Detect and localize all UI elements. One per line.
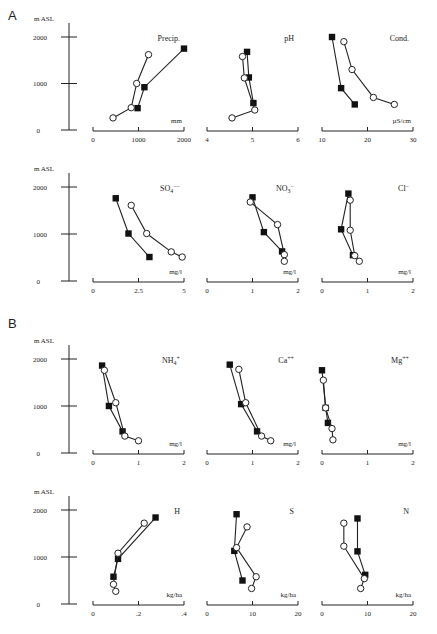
panel-mg: 012mg/lMg++	[319, 355, 415, 467]
marker-filled-square	[125, 230, 131, 236]
marker-filled-square	[227, 361, 233, 367]
panel-title: Cl−	[398, 183, 410, 193]
marker-filled-square	[354, 515, 360, 521]
marker-open-circle	[128, 202, 134, 208]
x-tick-label: 0	[91, 287, 95, 295]
panel-cl: 012mg/lCl−	[320, 183, 415, 295]
marker-open-circle	[168, 249, 174, 255]
marker-filled-square	[134, 105, 140, 111]
panel-nh4: 012mg/lNH4+	[91, 355, 186, 467]
marker-open-circle	[258, 433, 264, 439]
marker-open-circle	[252, 107, 258, 113]
x-tick-label: 20	[410, 610, 418, 618]
x-tick-label: 10	[249, 610, 257, 618]
y-tick-label: 2000	[33, 34, 48, 42]
x-tick-label: 4	[205, 136, 209, 144]
marker-filled-square	[110, 574, 116, 580]
panel-title: Mg++	[391, 355, 410, 365]
marker-filled-square	[345, 190, 351, 196]
marker-open-circle	[128, 104, 134, 110]
panel-s: 01020kg/haS	[205, 507, 302, 618]
marker-filled-square	[233, 511, 239, 517]
marker-open-circle	[101, 367, 107, 373]
marker-open-circle	[248, 585, 254, 591]
marker-open-circle	[329, 425, 335, 431]
marker-open-circle	[143, 230, 149, 236]
x-axis-unit: mg/l	[169, 440, 182, 448]
panel-title: NH4+	[162, 355, 181, 366]
marker-open-circle	[242, 400, 248, 406]
panel-title: pH	[284, 34, 294, 43]
marker-open-circle	[357, 585, 363, 591]
marker-open-circle	[141, 520, 147, 526]
marker-filled-square	[141, 84, 147, 90]
x-axis-unit: kg/ha	[395, 591, 411, 599]
series-line	[113, 518, 155, 577]
x-tick-label: 30	[410, 136, 418, 144]
panel-ca: 012mg/lCa++	[205, 355, 300, 467]
x-axis-unit: mg/l	[398, 440, 411, 448]
y-axis-label: m ASL	[34, 15, 54, 23]
x-tick-label: 2000	[177, 136, 192, 144]
x-tick-label: 0	[320, 459, 324, 467]
marker-open-circle	[247, 199, 253, 205]
y-axis-row-1: 010002000m ASL	[33, 165, 77, 286]
x-tick-label: 2	[411, 459, 415, 467]
x-axis-unit: kg/ha	[166, 591, 182, 599]
x-axis-unit: mg/l	[283, 268, 296, 276]
y-tick-label: 1000	[33, 231, 48, 239]
marker-open-circle	[135, 438, 141, 444]
x-axis-unit: kg/ha	[280, 591, 296, 599]
x-tick-label: 2	[296, 287, 300, 295]
y-tick-label: 0	[37, 450, 41, 458]
panel-title: NO3−	[276, 183, 295, 194]
x-tick-label: 0	[320, 287, 324, 295]
marker-open-circle	[239, 53, 245, 59]
x-tick-label: 1	[251, 459, 255, 467]
marker-open-circle	[179, 254, 185, 260]
panel-title: Cond.	[390, 34, 409, 43]
y-axis-label: m ASL	[34, 488, 54, 496]
marker-filled-square	[329, 34, 335, 40]
panel-title: S	[290, 507, 294, 516]
marker-open-circle	[361, 575, 367, 581]
x-axis-unit: mg/l	[169, 268, 182, 276]
marker-open-circle	[347, 197, 353, 203]
marker-open-circle	[341, 543, 347, 549]
x-axis-unit: mg/l	[398, 268, 411, 276]
panel-n: 01020kg/haN	[320, 507, 417, 618]
marker-open-circle	[268, 438, 274, 444]
marker-filled-square	[181, 45, 187, 51]
marker-open-circle	[347, 227, 353, 233]
y-axis-row-3: 010002000m ASL	[33, 488, 77, 609]
x-tick-label: 2	[182, 459, 186, 467]
x-tick-label: 0	[320, 610, 324, 618]
marker-open-circle	[330, 437, 336, 443]
figure-canvas: 010002000m ASL010002000m ASL010002000m A…	[0, 0, 437, 634]
marker-filled-square	[261, 229, 267, 235]
marker-filled-square	[338, 85, 344, 91]
marker-open-circle	[113, 588, 119, 594]
marker-open-circle	[391, 101, 397, 107]
marker-open-circle	[145, 51, 151, 57]
marker-open-circle	[341, 520, 347, 526]
y-axis-row-2: 010002000m ASL	[33, 337, 77, 458]
series-line	[230, 365, 257, 432]
marker-open-circle	[110, 581, 116, 587]
y-axis-label: m ASL	[34, 337, 54, 345]
marker-filled-square	[239, 577, 245, 583]
x-tick-label: 0	[91, 136, 95, 144]
x-tick-label: 5	[251, 136, 255, 144]
x-tick-label: 2	[411, 287, 415, 295]
y-tick-label: 1000	[33, 554, 48, 562]
x-tick-label: 0	[205, 459, 209, 467]
marker-open-circle	[233, 544, 239, 550]
marker-open-circle	[241, 75, 247, 81]
y-axis-row-0: 010002000m ASL	[33, 15, 77, 135]
x-tick-label: .4	[181, 610, 187, 618]
panel-cond: 102030µS/cmCond.	[319, 34, 418, 144]
x-tick-label: 0	[91, 610, 95, 618]
panel-no3: 012mg/lNO3−	[205, 183, 300, 295]
panel-title: N	[403, 507, 409, 516]
marker-filled-square	[319, 367, 325, 373]
